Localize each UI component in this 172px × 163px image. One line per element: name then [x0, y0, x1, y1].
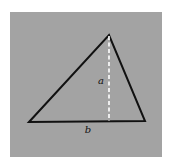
triangle: [29, 35, 145, 122]
base-label: b: [85, 124, 91, 135]
triangle-diagram: a b: [0, 0, 172, 163]
height-label: a: [98, 75, 104, 86]
